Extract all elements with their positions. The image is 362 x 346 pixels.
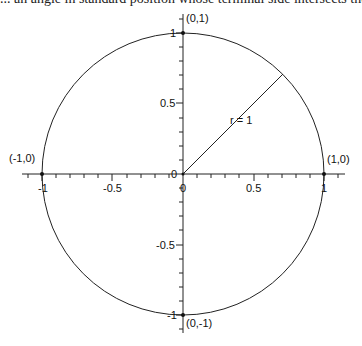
y-tick-label-0: 0	[171, 168, 177, 180]
point-label-neg1-0: (-1,0)	[9, 152, 35, 164]
point-marker-neg1-0	[40, 172, 44, 176]
y-tick-label-0_5: 0.5	[160, 97, 175, 109]
x-tick-label-neg1: -1	[38, 182, 48, 194]
x-tick-label-0: 0	[180, 182, 186, 194]
unit-circle-diagram: (0,1) (-1,0) (1,0) (0,-1) -1 -0.5 0 0.5 …	[0, 0, 362, 346]
point-marker-0-neg1	[181, 313, 185, 317]
x-tick-label-1: 1	[321, 182, 327, 194]
radius-label: r = 1	[230, 114, 252, 126]
point-marker-1-0	[322, 172, 326, 176]
y-tick-label-neg1: -1	[167, 309, 177, 321]
y-tick-label-neg0_5: -0.5	[156, 239, 175, 251]
point-label-0-neg1: (0,-1)	[186, 317, 212, 329]
point-marker-0-1	[181, 31, 185, 35]
origin-marker	[182, 173, 185, 176]
point-label-1-0: (1,0)	[327, 153, 350, 165]
x-tick-label-neg0_5: -0.5	[103, 182, 122, 194]
point-label-0-1: (0,1)	[186, 12, 209, 24]
y-tick-label-1: 1	[170, 27, 176, 39]
x-tick-label-0_5: 0.5	[246, 182, 261, 194]
